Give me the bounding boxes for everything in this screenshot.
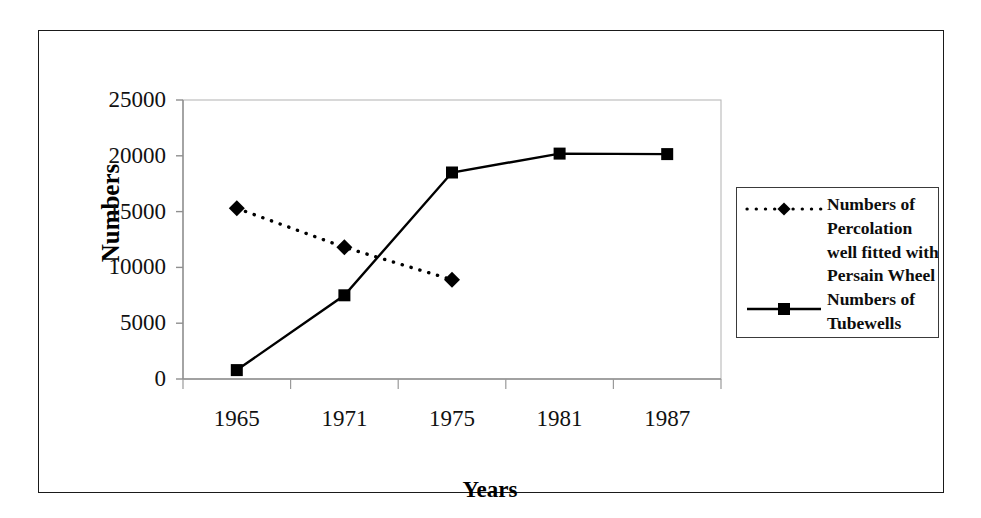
x-tick-label-1975: 1975 (397, 406, 507, 432)
x-tick-label-1987: 1987 (612, 406, 722, 432)
legend-entry-percolation-line-2: Percolation (827, 217, 945, 241)
legend-entry-tubewells-line-1: Numbers of (827, 288, 945, 312)
figure-outer-frame: Numbers 25000 20000 15000 10000 5000 0 1… (38, 30, 944, 493)
plot-area-border (183, 100, 721, 379)
figure-root: Numbers 25000 20000 15000 10000 5000 0 1… (0, 0, 981, 518)
chart-legend: Numbers of Percolation well fitted with … (736, 187, 939, 338)
y-tick-label-10000: 10000 (56, 254, 166, 280)
legend-entry-tubewells-line-2: Tubewells (827, 312, 945, 336)
legend-labels: Numbers of Percolation well fitted with … (827, 193, 945, 336)
y-tick-label-25000: 25000 (56, 87, 166, 113)
y-axis-ticks (176, 100, 183, 379)
x-tick-label-1965: 1965 (182, 406, 292, 432)
y-tick-label-5000: 5000 (56, 310, 166, 336)
legend-entry-percolation-line-4: Persain Wheel (827, 264, 945, 288)
x-axis-title: Years (221, 477, 759, 503)
y-tick-label-15000: 15000 (56, 199, 166, 225)
legend-entry-percolation-line-1: Numbers of (827, 193, 945, 217)
legend-marker-percolation-icon (745, 200, 823, 218)
y-tick-label-20000: 20000 (56, 143, 166, 169)
legend-entry-percolation-line-3: well fitted with (827, 241, 945, 265)
x-tick-label-1981: 1981 (505, 406, 615, 432)
x-axis-ticks (183, 379, 721, 389)
legend-marker-tubewells-icon (745, 300, 823, 318)
x-tick-label-1971: 1971 (289, 406, 399, 432)
y-tick-label-0: 0 (56, 366, 166, 392)
